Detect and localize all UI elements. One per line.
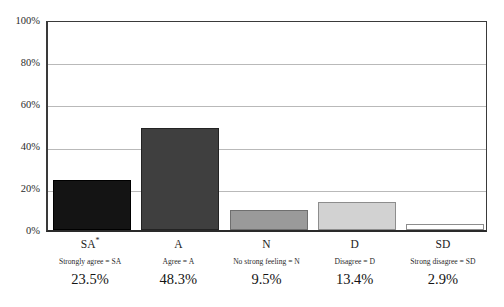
y-tick-label-0: 0%: [26, 226, 40, 237]
category-code-sd: SD: [399, 238, 487, 251]
y-tick-label-80: 80%: [21, 58, 40, 69]
bars-layer: [48, 22, 486, 230]
category-code-a: A: [134, 238, 222, 251]
category-value-n: 9.5%: [222, 271, 310, 288]
bar-sd[interactable]: [406, 224, 484, 230]
category-column-n: NNo strong feeling = N9.5%: [222, 232, 310, 288]
bar-n[interactable]: [230, 210, 308, 230]
y-tick-label-20: 20%: [21, 184, 40, 195]
bar-chart: 100% 80% 60% 40% 20% 0% SA*Strongly agre…: [0, 0, 504, 307]
y-tick-label-100: 100%: [16, 16, 41, 27]
y-tick-label-40: 40%: [21, 142, 40, 153]
category-code-n: N: [222, 238, 310, 251]
bar-d[interactable]: [318, 202, 396, 230]
plot-area: [46, 21, 487, 232]
footnote-marker-icon: *: [95, 236, 99, 245]
category-column-a: AAgree = A48.3%: [134, 232, 222, 288]
y-axis: 100% 80% 60% 40% 20% 0%: [0, 0, 44, 307]
category-legend-sa: Strongly agree = SA: [46, 257, 134, 267]
category-legend-sd: Strong disagree = SD: [399, 257, 487, 267]
category-value-sa: 23.5%: [46, 271, 134, 288]
category-legend-n: No strong feeling = N: [222, 257, 310, 267]
category-value-d: 13.4%: [311, 271, 399, 288]
category-column-sd: SDStrong disagree = SD2.9%: [399, 232, 487, 288]
category-code-sa: SA*: [46, 238, 134, 251]
category-value-a: 48.3%: [134, 271, 222, 288]
y-tick-label-60: 60%: [21, 100, 40, 111]
category-legend-d: Disagree = D: [311, 257, 399, 267]
category-labels: SA*Strongly agree = SA23.5%AAgree = A48.…: [46, 232, 487, 307]
category-value-sd: 2.9%: [399, 271, 487, 288]
bar-sa[interactable]: [53, 180, 131, 230]
bar-a[interactable]: [141, 128, 219, 230]
category-code-d: D: [311, 238, 399, 251]
category-column-sa: SA*Strongly agree = SA23.5%: [46, 232, 134, 288]
category-legend-a: Agree = A: [134, 257, 222, 267]
category-column-d: DDisagree = D13.4%: [311, 232, 399, 288]
